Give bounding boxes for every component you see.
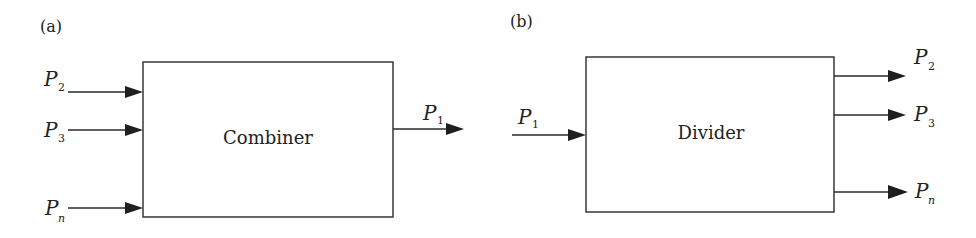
arrowhead-right-icon (125, 86, 143, 98)
port-symbol: P (422, 101, 437, 125)
port-subscript: 1 (437, 114, 444, 127)
output-port-p3: P 3 (834, 102, 935, 130)
port-symbol: P (913, 102, 928, 126)
panel-a: (a) Combiner P 2 P 3 P n P 1 (40, 17, 464, 225)
port-symbol: P (517, 105, 532, 129)
arrowhead-right-icon (888, 109, 906, 121)
output-port-p1: P 1 (393, 101, 464, 135)
port-subscript: n (928, 194, 935, 207)
output-port-pn: P n (834, 179, 935, 207)
divider-label: Divider (678, 122, 745, 143)
input-port-p3: P 3 (43, 118, 143, 145)
port-subscript: 3 (58, 132, 65, 145)
port-subscript: 3 (928, 117, 935, 130)
port-subscript: 2 (928, 60, 935, 73)
arrowhead-right-icon (125, 202, 143, 214)
input-port-p1: P 1 (512, 105, 586, 141)
panel-b: (b) Divider P 1 P 2 P 3 P n (510, 12, 935, 212)
port-subscript: 1 (532, 118, 539, 131)
arrowhead-right-icon (568, 129, 586, 141)
power-combiner-divider-diagram: (a) Combiner P 2 P 3 P n P 1 (0, 0, 976, 238)
port-symbol: P (44, 196, 59, 220)
arrowhead-right-icon (888, 185, 908, 199)
arrowhead-right-icon (446, 123, 464, 135)
arrowhead-right-icon (125, 124, 143, 136)
port-symbol: P (914, 179, 929, 203)
arrowhead-right-icon (888, 70, 906, 82)
input-port-p2: P 2 (43, 67, 143, 98)
port-symbol: P (913, 45, 928, 69)
input-port-pn: P n (44, 196, 143, 225)
combiner-label: Combiner (223, 127, 313, 148)
port-symbol: P (43, 118, 58, 142)
port-subscript: n (58, 212, 65, 225)
panel-a-label: (a) (40, 17, 62, 36)
output-port-p2: P 2 (834, 45, 935, 82)
panel-b-label: (b) (510, 12, 533, 31)
port-symbol: P (43, 67, 58, 91)
port-subscript: 2 (58, 81, 65, 94)
